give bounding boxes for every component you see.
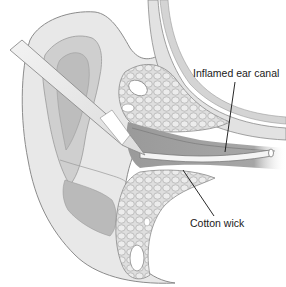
label-cotton-wick: Cotton wick [190,218,244,229]
label-inflamed-ear-canal: Inflamed ear canal [193,68,279,79]
ear-wick-illustration: Inflamed ear canal Cotton wick [0,0,286,287]
ear-anatomy-drawing [0,0,286,287]
